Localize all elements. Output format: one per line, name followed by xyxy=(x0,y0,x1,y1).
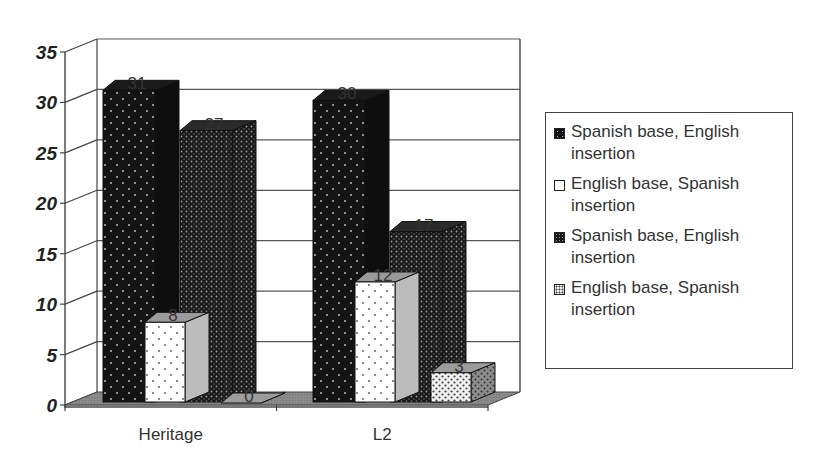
bar-value-label: 17 xyxy=(415,216,434,235)
legend-swatch-light-dense-icon xyxy=(554,284,565,295)
y-tick-label: 35 xyxy=(36,42,58,63)
bar: 12 xyxy=(355,266,419,402)
bar: 8 xyxy=(145,306,209,402)
legend-swatch-dark-sparse-icon xyxy=(554,128,565,139)
legend-item: Spanish base, English insertion xyxy=(554,121,792,164)
bar-value-label: 27 xyxy=(205,115,224,134)
bar-value-label: 3 xyxy=(454,357,463,376)
y-tick-label: 25 xyxy=(35,143,58,164)
legend-label: English base, Spanish insertion xyxy=(571,277,791,320)
x-category-label: L2 xyxy=(373,425,392,444)
bar-value-label: 30 xyxy=(338,84,357,103)
y-tick-label: 5 xyxy=(46,345,57,366)
bar-value-label: 8 xyxy=(168,306,177,325)
legend-swatch-white-icon xyxy=(554,180,565,191)
legend-item: English base, Spanish insertion xyxy=(554,173,792,216)
y-tick-label: 20 xyxy=(35,193,58,214)
bar-value-label: 31 xyxy=(128,74,147,93)
bar-value-label: 0 xyxy=(244,387,253,406)
legend-item: English base, Spanish insertion xyxy=(554,277,792,320)
y-tick-label: 30 xyxy=(36,92,58,113)
y-tick-label: 15 xyxy=(36,244,58,265)
legend-label: Spanish base, English insertion xyxy=(571,225,791,268)
y-tick-label: 0 xyxy=(46,395,57,416)
legend-item: Spanish base, English insertion xyxy=(554,225,792,268)
legend-label: English base, Spanish insertion xyxy=(571,173,791,216)
legend: Spanish base, English insertion English … xyxy=(545,112,793,369)
y-tick-label: 10 xyxy=(36,294,58,315)
legend-label: Spanish base, English insertion xyxy=(571,121,791,164)
x-category-label: Heritage xyxy=(139,425,203,444)
legend-swatch-dark-dense-icon xyxy=(554,232,565,243)
bar-value-label: 12 xyxy=(374,266,393,285)
x-axis-labels: HeritageL2 xyxy=(139,425,392,444)
